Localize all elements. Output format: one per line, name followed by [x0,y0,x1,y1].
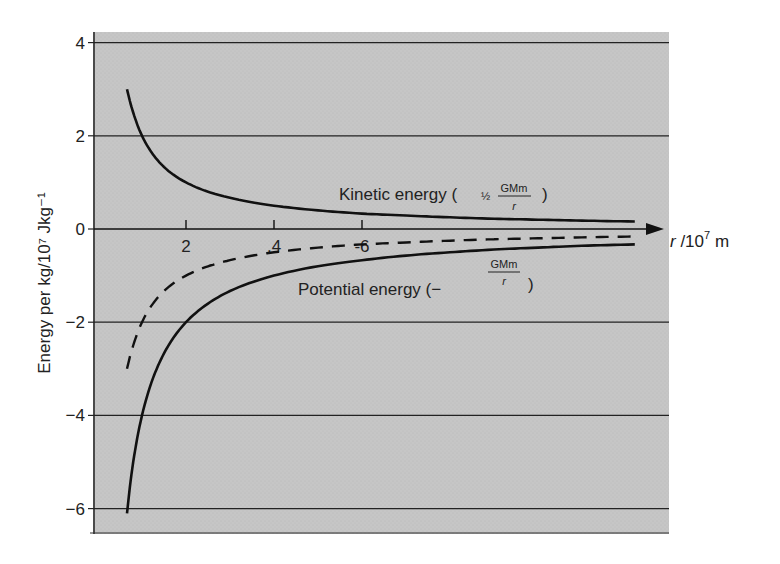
x-axis-label: r /107 m [670,229,729,251]
pe-label-prefix: Potential energy (− [298,280,441,299]
x-axis-label-scale: /10 [676,232,704,251]
ke-label-suffix: ) [542,185,548,204]
y-tick-label: 0 [76,220,85,239]
y-tick-label: −6 [66,500,85,519]
pe-label-numerator: GMm [491,258,518,270]
y-tick-label: −2 [66,313,85,332]
x-axis-label-unit: m [710,232,729,251]
ke-label-half: ½ [481,190,490,202]
ke-label-numerator: GMm [501,182,528,194]
pe-label-suffix: ) [528,275,534,294]
y-tick-labels: 420−2−4−6 [66,34,94,519]
y-tick-label: 4 [76,34,85,53]
y-tick-label: 2 [76,127,85,146]
y-tick-label: −4 [66,406,85,425]
x-tick-label: -6 [354,237,369,256]
y-axis-label: Energy per kg/10⁷ Jkg⁻¹ [35,192,54,374]
energy-chart: 420−2−4−6 2.4-6 Energy per kg/10⁷ Jkg⁻¹ … [0,0,780,564]
ke-label-prefix: Kinetic energy ( [339,185,457,204]
x-tick-label: 2 [181,237,190,256]
